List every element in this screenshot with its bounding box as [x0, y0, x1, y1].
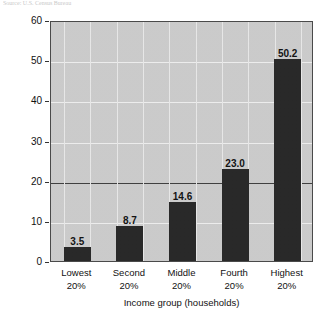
bar-value-label: 8.7	[105, 215, 155, 226]
y-tick-mark	[45, 101, 49, 102]
y-tick-label: 20	[16, 177, 42, 187]
y-tick-mark	[45, 182, 49, 183]
x-tick-label: Fourth20%	[204, 266, 264, 292]
bar	[116, 226, 143, 261]
x-tick-label: Lowest20%	[46, 266, 106, 292]
bar-value-label: 14.6	[158, 191, 208, 202]
y-tick-mark	[45, 61, 49, 62]
y-tick-label: 50	[16, 56, 42, 66]
x-tick-label-line: Lowest	[46, 266, 106, 279]
x-tick-label-line: 20%	[257, 279, 317, 292]
bar-value-label: 23.0	[210, 158, 260, 169]
y-tick-label: 0	[16, 257, 42, 267]
y-tick-label: 40	[16, 96, 42, 106]
x-tick-label-line: 20%	[204, 279, 264, 292]
y-tick-label: 10	[16, 217, 42, 227]
bar-value-label: 3.5	[52, 236, 102, 247]
x-tick-label: Highest20%	[257, 266, 317, 292]
plot-area: 3.58.714.623.050.2	[50, 21, 313, 262]
x-axis-tick-labels: Lowest20%Second20%Middle20%Fourth20%High…	[50, 266, 313, 294]
chart-figure: Source: U.S. Census Bureau Personal inco…	[0, 0, 319, 318]
x-tick-label: Middle20%	[152, 266, 212, 292]
bar	[64, 247, 91, 261]
y-axis-tick-labels: 0102030405060	[16, 21, 42, 262]
y-tick-label: 60	[16, 16, 42, 26]
bar	[169, 202, 196, 261]
bar	[274, 59, 301, 261]
bar-value-label: 50.2	[263, 48, 313, 59]
y-tick-mark	[45, 262, 49, 263]
x-tick-label-line: 20%	[46, 279, 106, 292]
source-note: Source: U.S. Census Bureau	[3, 0, 153, 7]
x-axis-title: Income group (households)	[50, 297, 313, 308]
gridline-vertical	[64, 22, 65, 261]
x-tick-label-line: Second	[99, 266, 159, 279]
x-tick-label-line: 20%	[152, 279, 212, 292]
x-tick-label-line: Highest	[257, 266, 317, 279]
y-tick-mark	[45, 142, 49, 143]
bar	[222, 169, 249, 261]
x-tick-label-line: Middle	[152, 266, 212, 279]
gridline-vertical	[90, 22, 91, 261]
x-tick-label: Second20%	[99, 266, 159, 292]
y-tick-mark	[45, 21, 49, 22]
y-tick-label: 30	[16, 137, 42, 147]
gridline-vertical	[196, 22, 197, 261]
x-tick-label-line: 20%	[99, 279, 159, 292]
y-tick-mark	[45, 222, 49, 223]
x-tick-label-line: Fourth	[204, 266, 264, 279]
